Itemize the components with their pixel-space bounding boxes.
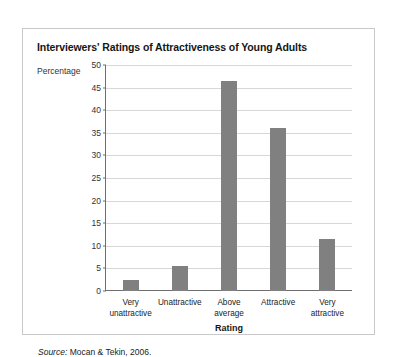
x-tick-line: unattractive [109, 308, 151, 319]
y-tick-label-50: 50 [92, 60, 101, 70]
x-tick-label: Aboveaverage [214, 297, 244, 319]
source-label: Source: [38, 347, 67, 357]
y-tick-label-15: 15 [92, 218, 101, 228]
x-tick-line: Attractive [261, 297, 295, 308]
y-tick-label-10: 10 [92, 241, 101, 251]
y-tick-mark-10 [103, 245, 106, 246]
y-tick-mark-25 [103, 178, 106, 179]
gridline-50 [106, 65, 352, 66]
y-tick-mark-30 [103, 155, 106, 156]
y-tick-mark-35 [103, 132, 106, 133]
y-tick-mark-15 [103, 223, 106, 224]
y-tick-mark-40 [103, 110, 106, 111]
x-tick-label: Attractive [261, 297, 295, 308]
bar [172, 266, 188, 291]
y-tick-label-40: 40 [92, 105, 101, 115]
plot-area: 05101520253035404550VeryunattractiveUnat… [106, 65, 352, 291]
bar [270, 128, 286, 291]
x-tick-line: Above [214, 297, 244, 308]
x-tick-line: Very [311, 297, 344, 308]
y-tick-label-35: 35 [92, 128, 101, 138]
x-tick-line: Unattractive [158, 297, 202, 308]
y-tick-mark-45 [103, 87, 106, 88]
y-tick-mark-0 [103, 291, 106, 292]
x-tick-label: Unattractive [158, 297, 202, 308]
y-tick-mark-20 [103, 200, 106, 201]
source-text: Mocan & Tekin, 2006. [67, 347, 151, 357]
page-title: Interviewers' Ratings of Attractiveness … [37, 41, 307, 53]
y-tick-label-45: 45 [92, 83, 101, 93]
y-tick-label-30: 30 [92, 150, 101, 160]
y-tick-mark-5 [103, 268, 106, 269]
x-tick-line: attractive [311, 308, 344, 319]
bar [319, 239, 335, 291]
y-tick-label-5: 5 [96, 263, 101, 273]
x-tick-label: Veryunattractive [109, 297, 151, 319]
plot-inner: 05101520253035404550VeryunattractiveUnat… [106, 65, 352, 291]
y-tick-label-25: 25 [92, 173, 101, 183]
bar [123, 280, 139, 291]
chart-card: Interviewers' Ratings of Attractiveness … [22, 28, 375, 335]
y-tick-label-0: 0 [96, 286, 101, 296]
y-axis-label: Percentage [37, 66, 80, 76]
y-tick-label-20: 20 [92, 196, 101, 206]
y-tick-mark-50 [103, 65, 106, 66]
x-tick-label: Veryattractive [311, 297, 344, 319]
x-tick-line: Very [109, 297, 151, 308]
x-tick-line: average [214, 308, 244, 319]
source-note: Source: Mocan & Tekin, 2006. [38, 347, 151, 357]
x-axis-label: Rating [106, 323, 352, 333]
bar [221, 81, 237, 291]
